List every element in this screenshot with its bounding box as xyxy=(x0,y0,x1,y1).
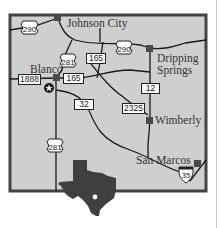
town-label-springs: Springs xyxy=(157,65,192,76)
town-label-blanco: Blanco xyxy=(30,64,63,75)
route-label-us281-north: 281 xyxy=(61,58,75,67)
town-label-dripping: Dripping xyxy=(157,53,199,64)
town-marker-dripping-springs xyxy=(146,45,153,52)
route-label-rm12: 12 xyxy=(141,83,160,94)
route-label-rm2325: 2325 xyxy=(122,103,145,114)
town-label-san-marcos: San Marcos xyxy=(136,155,191,166)
star-marker-icon xyxy=(44,83,54,93)
town-marker-wimberly xyxy=(146,117,153,124)
town-label-johnson-city: Johnson City xyxy=(67,18,127,29)
route-label-us281-south: 281 xyxy=(48,143,62,152)
route-label-rm165-north: 165 xyxy=(86,53,106,64)
route-label-rm32: 32 xyxy=(74,99,94,110)
town-label-wimberly: Wimberly xyxy=(155,115,201,126)
route-label-rm1888: 1888 xyxy=(18,74,41,85)
route-label-us290-west: 290 xyxy=(23,25,37,34)
town-marker-blanco xyxy=(53,74,60,81)
texas-location-dot xyxy=(93,195,98,200)
route-label-us290-east: 290 xyxy=(117,45,131,54)
town-marker-san-marcos xyxy=(194,160,201,167)
town-marker-johnson-city xyxy=(54,14,61,21)
svg-text:35: 35 xyxy=(182,171,190,180)
route-label-rm165-west: 165 xyxy=(63,73,84,84)
